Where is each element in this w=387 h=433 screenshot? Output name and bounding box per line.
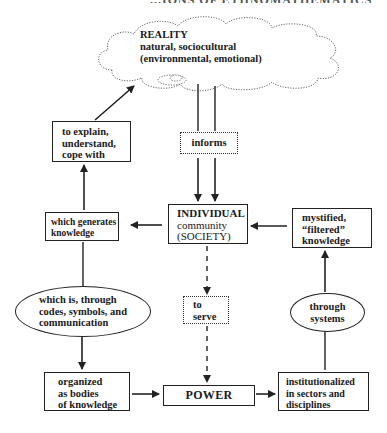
to-serve-line-1: to (193, 299, 228, 311)
organized-line-2: as bodies (58, 388, 129, 400)
explain-line-1: to explain, (62, 126, 130, 138)
institutionalized-line-2: in sectors and (286, 388, 368, 400)
explain-box: to explain, understand, cope with (52, 121, 131, 162)
reality-cloud: REALITY natural, sociocultural (environm… (140, 29, 262, 65)
individual-line-3: (SOCIETY) (177, 231, 247, 243)
to-serve-box: to serve (183, 296, 229, 324)
generates-knowledge-box: which generates knowledge (45, 212, 119, 241)
individual-line-1: INDIVIDUAL (177, 208, 247, 220)
mystified-knowledge-box: mystified, “filtered” knowledge (292, 208, 372, 248)
informs-box: informs (180, 132, 238, 154)
mystified-line-2: “filtered” (302, 224, 371, 236)
explain-line-3: cope with (62, 149, 130, 161)
codes-symbols-ellipse: which is, through codes, symbols, and co… (15, 286, 151, 337)
reality-line-2: (environmental, emotional) (140, 53, 262, 65)
power-box: POWER (163, 385, 255, 406)
through-systems-ellipse: through systems (290, 293, 365, 332)
institutionalized-box: institutionalized in sectors and discipl… (278, 372, 369, 411)
informs-label: informs (181, 137, 237, 149)
institutionalized-line-1: institutionalized (286, 376, 368, 388)
generates-line-1: which generates (51, 217, 118, 228)
power-label: POWER (164, 389, 254, 402)
codes-symbols-text: which is, through codes, symbols, and co… (39, 294, 127, 329)
through-line-1: through (310, 301, 346, 313)
individual-society-box: INDIVIDUAL community (SOCIETY) (168, 204, 248, 244)
explain-line-2: understand, (62, 138, 130, 150)
through-line-2: systems (310, 313, 346, 325)
which-is-line-2: codes, symbols, and (39, 306, 127, 318)
organized-line-1: organized (58, 376, 129, 388)
reality-title: REALITY (140, 29, 262, 41)
institutionalized-line-3: disciplines (286, 399, 368, 411)
generates-line-2: knowledge (51, 228, 118, 239)
mystified-line-1: mystified, (302, 212, 371, 224)
through-systems-text: through systems (310, 301, 346, 324)
reality-line-1: natural, sociocultural (140, 41, 262, 53)
which-is-line-1: which is, through (39, 294, 127, 306)
which-is-line-3: communication (39, 317, 127, 329)
mystified-line-3: knowledge (302, 235, 371, 247)
organized-line-3: of knowledge (58, 399, 129, 411)
organized-bodies-box: organized as bodies of knowledge (44, 372, 130, 411)
to-serve-line-2: serve (193, 311, 228, 323)
diagram-canvas: ...IONS OF ETHNOMATHEMATICS (0, 0, 387, 433)
